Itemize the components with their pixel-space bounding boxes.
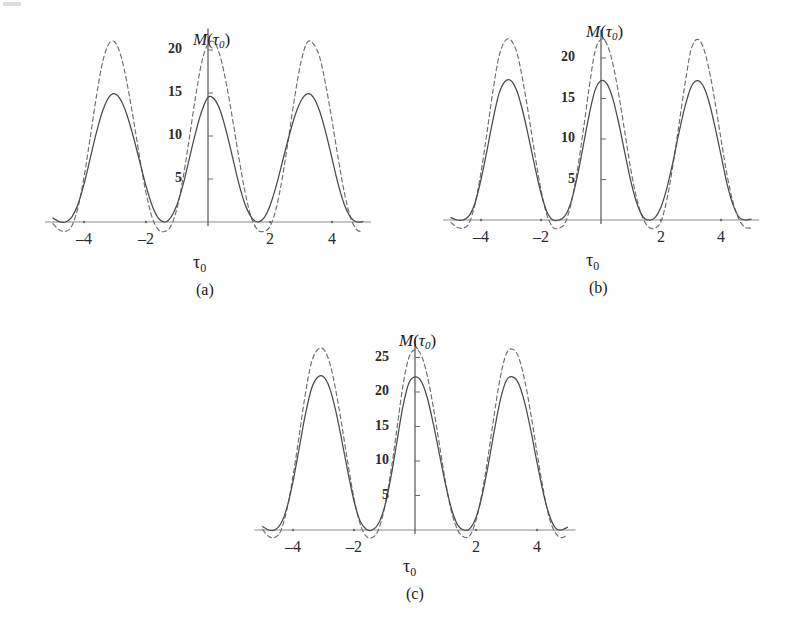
y-axis-label-paren-close: ) bbox=[430, 331, 436, 350]
y-axis-tick-label: 10 bbox=[168, 127, 182, 143]
y-axis-tick-label: 15 bbox=[375, 418, 389, 434]
y-axis-label-c: M(τ0) bbox=[399, 331, 436, 351]
x-axis-tick-label: –2 bbox=[533, 228, 549, 246]
plot-canvas-b bbox=[405, 0, 810, 311]
x-axis-tick-label: –2 bbox=[346, 538, 362, 556]
y-axis-label-symbol: M bbox=[399, 331, 413, 350]
y-axis-label-a: M(τ0) bbox=[193, 30, 230, 50]
x-axis-tick-label: –4 bbox=[285, 538, 301, 556]
x-axis-tick-label: –4 bbox=[76, 230, 92, 248]
x-axis-tick-mark bbox=[536, 529, 538, 531]
y-axis-tick-label: 5 bbox=[382, 487, 389, 503]
y-axis-tick-label: 10 bbox=[561, 130, 575, 146]
panel-caption-b: (b) bbox=[589, 279, 608, 297]
y-axis-label-symbol: M bbox=[193, 30, 207, 49]
x-axis-tick-label: –2 bbox=[138, 230, 154, 248]
x-axis-label-subscript: 0 bbox=[593, 259, 599, 273]
figure-three-panel-plots: M(τ0) τ0 (a) 5101520–4–224 M(τ0) τ0 (b) … bbox=[0, 0, 810, 622]
y-axis-label-paren-close: ) bbox=[224, 30, 230, 49]
x-axis-tick-mark bbox=[480, 219, 482, 221]
x-axis-tick-label: 2 bbox=[657, 228, 665, 246]
x-axis-label-subscript: 0 bbox=[410, 565, 416, 579]
x-axis-label-a: τ0 bbox=[193, 252, 206, 276]
panel-caption-c: (c) bbox=[406, 585, 424, 603]
y-axis-tick-label: 20 bbox=[561, 49, 575, 65]
panel-caption-a: (a) bbox=[196, 281, 214, 299]
x-axis-tick-label: 4 bbox=[533, 538, 541, 556]
plot-panel-a: M(τ0) τ0 (a) 5101520–4–224 bbox=[0, 0, 405, 311]
x-axis-tick-label: 2 bbox=[266, 230, 274, 248]
y-axis-label-paren-close: ) bbox=[617, 22, 623, 41]
x-axis-tick-mark bbox=[353, 529, 355, 531]
x-axis-tick-label: –4 bbox=[473, 228, 489, 246]
y-axis-tick-label: 20 bbox=[168, 41, 182, 57]
plot-panel-b: M(τ0) τ0 (b) 5101520–4–224 bbox=[405, 0, 810, 311]
y-axis-tick-label: 10 bbox=[375, 452, 389, 468]
y-axis-tick-label: 5 bbox=[175, 170, 182, 186]
y-axis-tick-label: 15 bbox=[168, 84, 182, 100]
x-axis-tick-mark bbox=[269, 221, 271, 223]
x-axis-tick-mark bbox=[145, 221, 147, 223]
y-axis-tick-label: 25 bbox=[375, 349, 389, 365]
x-axis-tick-label: 2 bbox=[472, 538, 480, 556]
y-axis-tick-label: 5 bbox=[568, 171, 575, 187]
x-axis-label-subscript: 0 bbox=[200, 261, 206, 275]
x-axis-tick-mark bbox=[331, 221, 333, 223]
x-axis-label-c: τ0 bbox=[403, 556, 416, 580]
y-axis-tick-label: 20 bbox=[375, 383, 389, 399]
x-axis-tick-mark bbox=[83, 221, 85, 223]
x-axis-tick-mark bbox=[475, 529, 477, 531]
x-axis-tick-mark bbox=[540, 219, 542, 221]
y-axis-label-b: M(τ0) bbox=[586, 22, 623, 42]
y-axis-label-symbol: M bbox=[586, 22, 600, 41]
x-axis-tick-label: 4 bbox=[328, 230, 336, 248]
x-axis-tick-label: 4 bbox=[717, 228, 725, 246]
x-axis-label-b: τ0 bbox=[586, 250, 599, 274]
x-axis-tick-mark bbox=[720, 219, 722, 221]
y-axis-tick-label: 15 bbox=[561, 90, 575, 106]
x-axis-tick-mark bbox=[292, 529, 294, 531]
plot-panel-c: M(τ0) τ0 (c) 510152025–4–224 bbox=[200, 311, 610, 622]
